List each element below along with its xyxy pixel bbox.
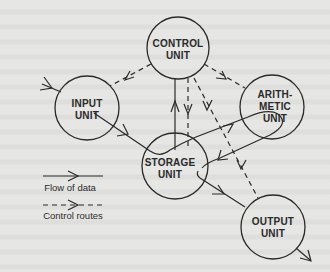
arithmetic-unit-label-line2: METIC	[259, 101, 291, 112]
legend: Flow of data Control routes	[43, 171, 103, 221]
arrowhead-icon	[216, 71, 226, 79]
node-arithmetic-unit: ARITH- METIC UNIT	[240, 75, 304, 139]
node-input-unit: INPUT UNIT	[55, 76, 119, 140]
legend-data-flow: Flow of data	[43, 171, 103, 193]
control-unit-label-line2: UNIT	[166, 50, 190, 61]
edge-storage-to-control	[171, 79, 179, 150]
arrowhead-icon	[40, 77, 52, 90]
arithmetic-unit-label-line3: UNIT	[263, 113, 287, 124]
output-unit-label-line1: OUTPUT	[252, 216, 294, 227]
arrowhead-icon	[223, 124, 233, 133]
arrowhead-icon	[125, 71, 134, 80]
node-control-unit: CONTROL UNIT	[147, 17, 209, 79]
input-unit-label-line1: INPUT	[72, 98, 103, 109]
arithmetic-unit-label-line1: ARITH-	[257, 89, 292, 100]
storage-unit-label-line2: UNIT	[158, 169, 182, 180]
computer-units-diagram: CONTROL UNIT INPUT UNIT ARITH- METIC UNI…	[0, 0, 330, 272]
arrowhead-icon	[203, 100, 212, 110]
edge-external-to-input	[40, 77, 61, 92]
edge-control-to-input	[110, 64, 151, 86]
diagram-page: CONTROL UNIT INPUT UNIT ARITH- METIC UNI…	[0, 0, 330, 272]
storage-unit-label-line1: STORAGE	[145, 157, 196, 168]
output-unit-circle	[241, 195, 305, 259]
input-unit-label-line2: UNIT	[75, 110, 99, 121]
legend-control-routes: Control routes	[43, 200, 103, 221]
edge-storage-to-output	[197, 171, 245, 207]
edge-control-to-storage	[184, 78, 192, 146]
legend-control-routes-label: Control routes	[43, 210, 103, 221]
legend-data-flow-label: Flow of data	[44, 182, 96, 193]
node-output-unit: OUTPUT UNIT	[241, 195, 305, 259]
output-unit-label-line2: UNIT	[261, 228, 285, 239]
edge-output-to-external	[296, 248, 311, 261]
edge-control-to-arithmetic	[204, 64, 245, 88]
control-unit-label-line1: CONTROL	[153, 38, 204, 49]
